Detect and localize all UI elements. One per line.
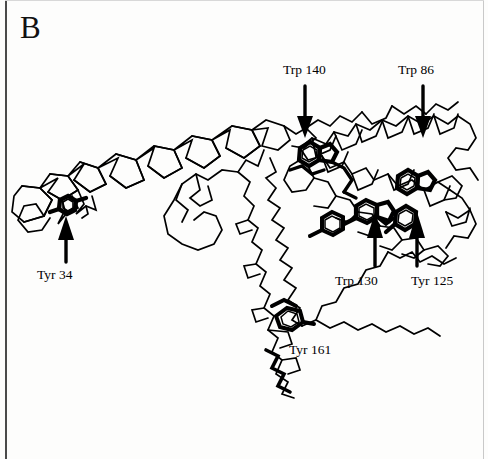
label-trp140: Trp 140 bbox=[283, 63, 326, 77]
backbone-left-terminus bbox=[18, 204, 50, 232]
backbone-hook-5 bbox=[282, 358, 300, 374]
label-trp86: Trp 86 bbox=[398, 63, 434, 77]
backbone-right-outer bbox=[448, 116, 478, 180]
sidechain-tyr34-inner bbox=[63, 199, 73, 211]
backbone-core-region bbox=[284, 102, 470, 266]
sidechain-trp86 bbox=[397, 170, 435, 194]
label-tyr125: Tyr 125 bbox=[411, 274, 453, 288]
sidechain-core-extra-ring bbox=[310, 212, 343, 236]
backbone-central-left-loop bbox=[164, 170, 238, 250]
sidechain-tyr125-inner bbox=[398, 210, 413, 226]
backbone-central-left-loop3 bbox=[176, 184, 188, 222]
label-tyr34: Tyr 34 bbox=[37, 268, 72, 282]
figure-panel-b: B bbox=[0, 0, 488, 459]
arrow-trp140 bbox=[297, 86, 313, 138]
sidechain-core-extra-ring-inner bbox=[325, 216, 340, 232]
backbone-lower-connector bbox=[302, 320, 440, 336]
backbone-helix-seg14 bbox=[226, 126, 260, 158]
label-trp130: Trp 130 bbox=[335, 274, 378, 288]
backbone-helix-seg15 bbox=[252, 120, 290, 150]
label-tyr161: Tyr 161 bbox=[289, 343, 331, 357]
arrow-tyr34 bbox=[58, 216, 74, 262]
